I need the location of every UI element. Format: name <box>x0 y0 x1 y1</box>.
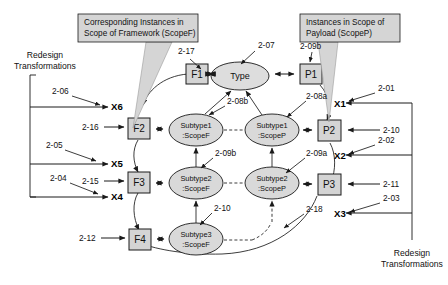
ann-2-09b: 2-09b <box>215 148 237 158</box>
node-type[interactable]: Type <box>211 62 269 90</box>
node-F3-label: F3 <box>133 177 145 188</box>
ann-2-14: 2-12 <box>79 233 96 243</box>
callout-scopef: Corresponding Instances in Scope of Fram… <box>78 14 198 128</box>
ann-2-13: 2-11 <box>383 179 399 189</box>
callout-scopef-line2: Scope of Framework (ScopeF) <box>84 29 196 38</box>
left-side-label: Redesign Transformations <box>14 50 76 71</box>
node-subtype2-scopef-line2: :ScopeF <box>182 184 210 193</box>
callout-scopep-line2: Payload (ScopeP) <box>306 29 372 38</box>
right-side-label-line1: Redesign <box>394 248 431 258</box>
node-subtype1-scopep-line1: Subtype1 <box>256 121 287 130</box>
ann-2-01: 2-01 <box>378 83 395 93</box>
x-markers: X6 X5 X4 X1 X2 X3 <box>111 98 346 219</box>
node-subtype1-scopef-line1: Subtype1 <box>180 121 211 130</box>
node-P2[interactable]: P2 <box>318 120 341 141</box>
ann-2-03: 2-03 <box>383 193 400 203</box>
right-side-label-line2: Transformations <box>381 259 443 269</box>
callout-scopep-line1: Instances in Scope of <box>306 18 385 27</box>
ann-2-10: 2-10 <box>214 203 231 213</box>
diagram-svg: Type F1 F2 F3 F4 P1 P2 P3 <box>0 0 448 285</box>
x-marker-X3: X3 <box>334 208 346 219</box>
node-subtype2-scopep[interactable]: Subtype2 :ScopeP <box>245 167 299 199</box>
node-F2[interactable]: F2 <box>128 118 150 139</box>
left-side-label-line2: Transformations <box>14 61 76 71</box>
ann-2-07: 2-07 <box>258 40 275 50</box>
node-subtype2-scopef-line1: Subtype2 <box>180 174 211 183</box>
node-F1-label: F1 <box>191 69 203 80</box>
ann-2-04: 2-04 <box>50 173 67 183</box>
ann-2-12: 2-10 <box>383 125 400 135</box>
node-P3[interactable]: P3 <box>318 174 341 195</box>
node-subtype1-scopef-line2: :ScopeF <box>182 131 210 140</box>
x-marker-X6: X6 <box>111 101 123 112</box>
node-subtype1-scopef[interactable]: Subtype1 :ScopeF <box>169 114 223 146</box>
payload-chain-edges <box>140 85 335 254</box>
x-marker-X1: X1 <box>334 98 346 109</box>
diagram-canvas: Type F1 F2 F3 F4 P1 P2 P3 <box>0 0 448 285</box>
node-P2-label: P2 <box>323 125 336 136</box>
right-transformation-rail <box>346 103 412 240</box>
x-marker-X4: X4 <box>111 191 123 202</box>
node-P3-label: P3 <box>323 179 336 190</box>
right-side-label: Redesign Transformations <box>381 248 443 269</box>
ann-2-17: 2-17 <box>178 46 195 56</box>
x-marker-X5: X5 <box>111 158 123 169</box>
ann-2-02: 2-02 <box>378 135 395 145</box>
ann-2-09a: 2-09a <box>306 148 328 158</box>
ann-2-11: 2-09b <box>300 41 322 51</box>
node-subtype3-scopef[interactable]: Subtype3 :ScopeF <box>169 223 223 255</box>
node-F3[interactable]: F3 <box>128 172 150 193</box>
node-subtype1-scopep-line2: :ScopeP <box>258 131 286 140</box>
ann-2-05: 2-05 <box>46 140 63 150</box>
ann-2-08b: 2-08b <box>227 96 249 106</box>
x-marker-X2: X2 <box>334 150 346 161</box>
callout-scopef-line1: Corresponding Instances in <box>84 18 184 27</box>
ann-2-16: 2-16 <box>82 122 99 132</box>
node-subtype2-scopep-line1: Subtype2 <box>256 174 287 183</box>
node-type-label: Type <box>230 71 250 81</box>
node-subtype1-scopep[interactable]: Subtype1 :ScopeP <box>245 114 299 146</box>
ann-2-15: 2-15 <box>82 176 99 186</box>
node-P1[interactable]: P1 <box>300 64 322 84</box>
node-F1[interactable]: F1 <box>186 64 208 84</box>
node-F4-label: F4 <box>134 234 146 245</box>
node-subtype2-scopep-line2: :ScopeP <box>258 184 286 193</box>
node-subtype2-scopef[interactable]: Subtype2 :ScopeF <box>169 167 223 199</box>
ann-2-18: 2-18 <box>306 204 323 214</box>
ann-2-08a: 2-08a <box>306 91 328 101</box>
left-side-label-line1: Redesign <box>27 50 64 60</box>
node-subtype3-scopef-line1: Subtype3 <box>180 230 211 239</box>
node-F4[interactable]: F4 <box>129 229 151 250</box>
node-P1-label: P1 <box>305 69 318 80</box>
node-subtype3-scopef-line2: :ScopeF <box>182 240 210 249</box>
ann-2-06: 2-06 <box>52 86 69 96</box>
